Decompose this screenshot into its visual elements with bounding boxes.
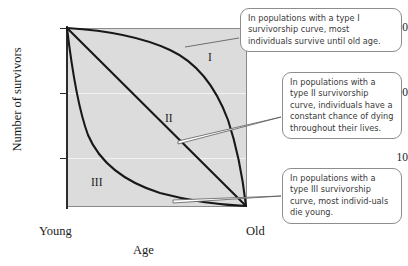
y-tick-10	[60, 158, 67, 159]
curve-label-type-iii: III	[91, 176, 103, 188]
x-axis-label-young: Young	[39, 224, 72, 239]
callout-type-iii: In populations with a type III survivors…	[282, 168, 402, 224]
x-axis-title: Age	[133, 243, 154, 258]
y-axis-title: Number of survivors	[10, 35, 25, 165]
curve-label-type-i: I	[208, 51, 212, 63]
y-tick-100	[60, 93, 67, 94]
curve-label-type-ii: II	[165, 112, 173, 124]
y-tick-1000	[60, 28, 67, 29]
x-axis-label-old: Old	[246, 224, 265, 239]
callout-type-ii: In populations with a type II survivorsh…	[282, 72, 402, 139]
y-axis-line	[66, 26, 68, 209]
survivorship-curve-figure: 1,000 100 10 Number of survivors Young O…	[0, 0, 408, 266]
gridline-10	[68, 158, 246, 159]
gridline-100	[68, 93, 246, 94]
y-tick-label-10: 10	[350, 152, 408, 164]
callout-type-i: In populations with a type I survivorshi…	[240, 8, 402, 52]
